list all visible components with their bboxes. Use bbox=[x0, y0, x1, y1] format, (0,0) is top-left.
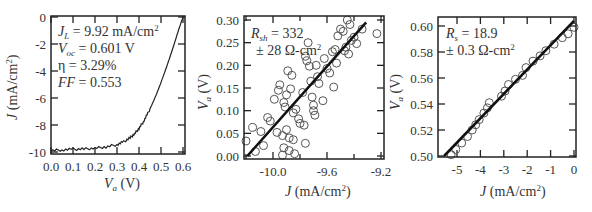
p1-annotation-ff: FF = 0.553 bbox=[57, 75, 122, 90]
x-tick-label: 0.3 bbox=[109, 159, 125, 174]
y-tick-label: 0.52 bbox=[410, 123, 433, 138]
y-tick-label: 0.15 bbox=[216, 81, 239, 96]
p2-annotation-error: ± 28 Ω-cm2 bbox=[256, 42, 321, 58]
x-tick-label: -9.2 bbox=[371, 164, 392, 179]
data-point bbox=[311, 111, 319, 119]
data-point bbox=[319, 97, 327, 105]
data-point bbox=[310, 107, 318, 115]
x-tick-label: 0.2 bbox=[87, 159, 103, 174]
figure: 0.00.10.20.30.40.50.60-2-4-6-8-10 JL = 9… bbox=[0, 0, 592, 212]
p1-x-axis-title: Va (V) bbox=[104, 176, 140, 193]
p3-annotation-rs: Rs = 18.9 bbox=[445, 26, 497, 43]
p1-annotation-jl: JL = 9.92 mA/cm2 bbox=[58, 23, 159, 41]
p2-x-axis-title: J (mA/cm2) bbox=[285, 183, 351, 200]
x-tick-label: -3 bbox=[498, 162, 509, 177]
y-tick-label: 0.30 bbox=[216, 13, 239, 28]
panel-jv-curve: 0.00.10.20.30.40.50.60-2-4-6-8-10 JL = 9… bbox=[4, 10, 192, 194]
data-point bbox=[328, 48, 336, 56]
x-tick-label: -1 bbox=[545, 162, 556, 177]
p3-x-axis-title: J (mA/cm2) bbox=[480, 183, 546, 200]
data-point bbox=[276, 81, 284, 89]
y-tick-label: -2 bbox=[35, 37, 46, 52]
data-point bbox=[257, 128, 265, 136]
p2-ticks: -10.0-9.6-9.20.300.250.200.150.100.050.0… bbox=[216, 13, 391, 180]
data-point bbox=[326, 69, 334, 77]
y-tick-label: -10 bbox=[29, 145, 46, 160]
x-tick-label: 0 bbox=[571, 162, 578, 177]
y-tick-label: 0.20 bbox=[216, 58, 239, 73]
y-tick-label: -4 bbox=[35, 64, 46, 79]
y-tick-label: 0.25 bbox=[216, 35, 239, 50]
p1-y-axis-title: J (mA/cm2) bbox=[4, 54, 21, 120]
data-point bbox=[249, 123, 257, 131]
data-point bbox=[270, 95, 278, 103]
p3-fit-line bbox=[444, 21, 574, 156]
p1-annotation-voc: Voc = 0.601 V bbox=[58, 41, 135, 58]
y-tick-label: -6 bbox=[35, 91, 46, 106]
data-point bbox=[343, 16, 351, 24]
x-tick-label: -10.0 bbox=[259, 164, 286, 179]
data-point bbox=[283, 91, 291, 99]
data-point bbox=[301, 139, 309, 147]
data-point bbox=[320, 55, 328, 63]
data-point bbox=[337, 25, 345, 33]
x-tick-label: -5 bbox=[452, 162, 463, 177]
x-tick-label: -9.6 bbox=[317, 164, 338, 179]
x-tick-label: -4 bbox=[475, 162, 486, 177]
p3-annotation-error: ± 0.3 Ω-cm2 bbox=[446, 42, 515, 58]
y-tick-label: 0.05 bbox=[216, 126, 239, 141]
x-tick-label: 0.4 bbox=[131, 159, 148, 174]
y-tick-label: 0.56 bbox=[410, 71, 433, 86]
p1-annotation-eta: η = 3.29% bbox=[58, 58, 117, 73]
y-tick-label: 0.58 bbox=[410, 45, 433, 60]
x-tick-label: -2 bbox=[522, 162, 533, 177]
p3-y-axis-title: Va (V) bbox=[388, 74, 405, 110]
y-tick-label: 0.60 bbox=[410, 19, 433, 34]
y-tick-label: 0.54 bbox=[410, 97, 433, 112]
data-point bbox=[330, 83, 338, 91]
y-tick-label: 0 bbox=[40, 10, 47, 25]
data-point bbox=[287, 85, 295, 93]
p2-y-axis-title: Va (V) bbox=[196, 74, 213, 110]
x-tick-label: 0.1 bbox=[65, 159, 81, 174]
y-tick-label: -8 bbox=[35, 118, 46, 133]
panel-series-resistance: -5-4-3-2-100.600.580.560.540.520.50 Rs =… bbox=[388, 17, 578, 200]
panel-shunt-resistance: -10.0-9.6-9.20.300.250.200.150.100.050.0… bbox=[196, 13, 391, 201]
p2-annotation-rsh: Rsh = 332 bbox=[250, 26, 303, 43]
x-tick-label: 0.5 bbox=[153, 159, 169, 174]
data-point bbox=[242, 137, 250, 145]
y-tick-label: 0.00 bbox=[216, 149, 239, 164]
data-point bbox=[346, 21, 354, 29]
data-point bbox=[283, 126, 291, 134]
data-point bbox=[339, 27, 347, 35]
x-tick-label: 0.0 bbox=[43, 159, 59, 174]
data-point bbox=[308, 93, 316, 101]
y-tick-label: 0.10 bbox=[216, 103, 239, 118]
y-tick-label: 0.50 bbox=[410, 149, 433, 164]
data-point bbox=[373, 30, 381, 38]
data-point bbox=[274, 86, 282, 94]
x-tick-label: 0.6 bbox=[175, 159, 192, 174]
